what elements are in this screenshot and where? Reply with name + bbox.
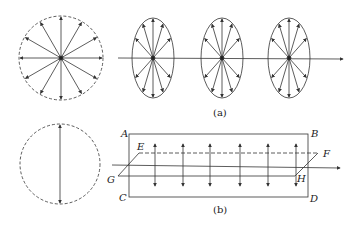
polarized-vectors [155, 144, 296, 186]
polarization-diagram: (a) (b) A B C D E F G H [0, 0, 351, 227]
label-c: C [119, 193, 127, 203]
label-f: F [323, 149, 330, 159]
label-h: H [297, 174, 306, 184]
label-d: D [310, 194, 318, 204]
caption-b: (b) [213, 205, 227, 215]
label-g: G [107, 175, 115, 185]
diagram-canvas [0, 0, 351, 227]
label-b: B [311, 129, 318, 139]
polarized-circle [20, 124, 100, 204]
label-a: A [121, 129, 128, 139]
label-e: E [137, 142, 144, 152]
caption-a: (a) [213, 108, 227, 118]
unpolarized-circle [19, 16, 103, 100]
plane-efgh [118, 153, 318, 176]
